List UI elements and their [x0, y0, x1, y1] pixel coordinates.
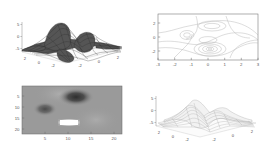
heatmap-image-body: [22, 82, 122, 134]
contour-xticklabel-1: -2: [173, 62, 177, 67]
mesh-zticklabel-0: -5: [150, 120, 154, 125]
heatmap-yticklabel-0: 5: [17, 94, 20, 99]
contour-xticklabel-4: 1: [224, 62, 227, 67]
panel-contour[interactable]: 2 0 -2 -3 -2 -1 0 1 2 3: [134, 2, 267, 74]
surface-zticklabel-2: 5: [17, 22, 20, 27]
surface-zticklabel-1: 0: [17, 34, 20, 39]
heatmap-svg: 5 10 15 20 5 10 15 20: [0, 76, 133, 148]
contour-yticklabel-2: 2: [153, 21, 156, 26]
surface-yticklabel-2: 2: [24, 56, 27, 61]
heatmap-xticklabel-1: 10: [66, 136, 71, 141]
heatmap-yticklabel-2: 15: [15, 116, 20, 121]
contour-svg: 2 0 -2 -3 -2 -1 0 1 2 3: [134, 2, 267, 74]
heatmap-xticklabel-0: 5: [44, 136, 47, 141]
3d-mesh-svg: -5 0 5 2 0 -2 -2 0 2: [134, 76, 267, 148]
mesh-zticklabel-2: 5: [151, 96, 154, 101]
figure-canvas: -5 0 5 2 0 -2 -2 0 2: [0, 0, 267, 149]
heatmap-xticklabel-2: 15: [89, 136, 94, 141]
mesh-yticklabel-2: 2: [158, 130, 161, 135]
mesh-yticklabel-1: 0: [172, 134, 175, 139]
mesh-yticklabel-0: -2: [185, 137, 189, 142]
contour-xticklabel-5: 2: [240, 62, 243, 67]
mesh-xticklabel-2: 2: [251, 129, 254, 134]
contour-xticklabel-6: 3: [257, 62, 260, 67]
surface-yticklabel-0: -2: [51, 63, 55, 68]
panel-heatmap-image[interactable]: 5 10 15 20 5 10 15 20: [0, 76, 133, 148]
panel-3d-mesh[interactable]: -5 0 5 2 0 -2 -2 0 2: [134, 76, 267, 148]
surface-yticklabel-1: 0: [38, 60, 41, 65]
surface-xticklabel-1: 0: [98, 59, 101, 64]
contour-yticklabel-1: 0: [153, 35, 156, 40]
surface-xticklabel-0: -2: [78, 63, 82, 68]
mesh-xticklabel-0: -2: [212, 137, 216, 142]
heatmap-xticklabel-3: 20: [112, 136, 117, 141]
surface-xticklabel-2: 2: [117, 55, 120, 60]
panel-3d-surface[interactable]: -5 0 5 2 0 -2 -2 0 2: [0, 2, 133, 74]
heatmap-yticklabel-3: 20: [15, 127, 20, 132]
surface-zticklabel-0: -5: [16, 46, 20, 51]
contour-xticklabel-2: -1: [189, 62, 193, 67]
contour-yticklabel-0: -2: [152, 49, 156, 54]
mesh-xticklabel-1: 0: [232, 133, 235, 138]
heatmap-yticklabel-1: 10: [15, 105, 20, 110]
contour-xticklabel-0: -3: [156, 62, 160, 67]
mesh-zticklabel-1: 0: [151, 108, 154, 113]
3d-surface-svg: -5 0 5 2 0 -2 -2 0 2: [0, 2, 133, 74]
contour-lines: [158, 16, 258, 58]
contour-xticklabel-3: 0: [207, 62, 210, 67]
